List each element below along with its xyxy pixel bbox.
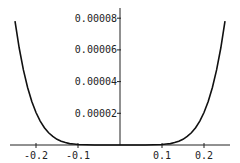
y-tick-label: 0.00002 — [75, 108, 117, 119]
x-tick-label: -0.2 — [24, 150, 48, 161]
x-tick-label: 0.1 — [153, 150, 171, 161]
y-tick-label: 0.00004 — [75, 76, 117, 87]
y-tick-label: 0.00008 — [75, 13, 117, 24]
x-tick-label: -0.1 — [66, 150, 90, 161]
y-tick-label: 0.00006 — [75, 44, 117, 55]
plot-canvas: -0.2-0.10.10.20.000020.000040.000060.000… — [0, 0, 240, 163]
axes: -0.2-0.10.10.20.000020.000040.000060.000… — [10, 8, 230, 161]
x-tick-label: 0.2 — [195, 150, 213, 161]
